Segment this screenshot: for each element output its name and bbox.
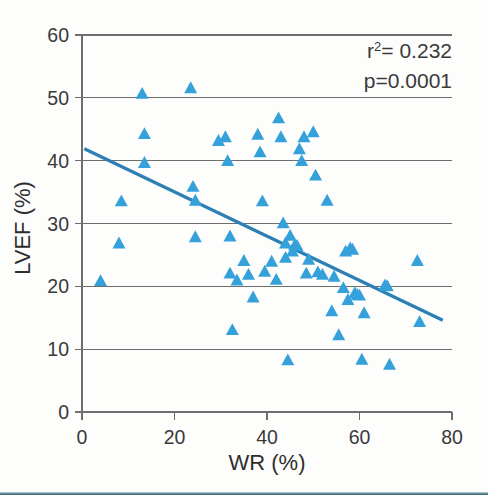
data-point bbox=[309, 169, 322, 181]
data-point bbox=[277, 216, 290, 228]
data-point bbox=[224, 267, 237, 279]
data-point bbox=[189, 230, 202, 242]
data-point bbox=[224, 230, 237, 242]
data-point bbox=[358, 306, 371, 318]
data-point bbox=[115, 194, 128, 206]
data-point bbox=[138, 127, 151, 139]
data-point bbox=[247, 291, 260, 303]
data-point bbox=[300, 267, 313, 279]
data-point bbox=[307, 125, 320, 137]
data-point bbox=[256, 194, 269, 206]
data-point bbox=[136, 87, 149, 99]
y-tick-label: 50 bbox=[47, 87, 69, 109]
x-tick-label: 60 bbox=[349, 426, 371, 448]
data-point bbox=[293, 142, 306, 154]
data-point bbox=[272, 111, 285, 123]
data-point bbox=[265, 255, 278, 267]
data-point bbox=[219, 130, 232, 142]
x-tick-label: 80 bbox=[441, 426, 463, 448]
y-axis-tick-labels: 0102030405060 bbox=[47, 24, 69, 423]
r-squared-annotation: r2= 0.232 bbox=[367, 39, 452, 62]
data-point bbox=[383, 358, 396, 370]
data-point bbox=[411, 254, 424, 266]
y-tick-label: 30 bbox=[47, 213, 69, 235]
x-tick-label: 0 bbox=[77, 426, 88, 448]
data-point bbox=[337, 281, 350, 293]
scatter-plot: 0102030405060 020406080 LVEF (%) WR (%) … bbox=[0, 0, 488, 495]
data-point bbox=[321, 194, 334, 206]
y-tick-label: 0 bbox=[58, 401, 69, 423]
tick-marks bbox=[75, 35, 452, 420]
x-tick-label: 40 bbox=[256, 426, 278, 448]
data-point bbox=[113, 237, 126, 249]
data-points bbox=[94, 81, 426, 369]
data-point bbox=[413, 315, 426, 327]
data-point bbox=[355, 353, 368, 365]
data-point bbox=[187, 180, 200, 192]
y-tick-label: 40 bbox=[47, 150, 69, 172]
y-tick-label: 20 bbox=[47, 275, 69, 297]
data-point bbox=[251, 128, 264, 140]
data-point bbox=[94, 274, 107, 286]
data-point bbox=[237, 254, 250, 266]
x-axis-title: WR (%) bbox=[229, 450, 306, 475]
data-point bbox=[274, 130, 287, 142]
data-point bbox=[242, 268, 255, 280]
figure-container: 0102030405060 020406080 LVEF (%) WR (%) … bbox=[0, 0, 488, 495]
data-point bbox=[184, 81, 197, 93]
x-axis-tick-labels: 020406080 bbox=[77, 426, 463, 448]
y-axis-title: LVEF (%) bbox=[10, 181, 35, 275]
regression-line bbox=[84, 149, 442, 321]
data-point bbox=[270, 273, 283, 285]
data-point bbox=[332, 328, 345, 340]
y-tick-label: 60 bbox=[47, 24, 69, 46]
data-point bbox=[281, 353, 294, 365]
data-point bbox=[325, 304, 338, 316]
y-tick-label: 10 bbox=[47, 338, 69, 360]
p-value-annotation: p=0.0001 bbox=[364, 69, 452, 92]
data-point bbox=[138, 156, 151, 168]
data-point bbox=[226, 323, 239, 335]
x-tick-label: 20 bbox=[164, 426, 186, 448]
data-point bbox=[254, 145, 267, 157]
